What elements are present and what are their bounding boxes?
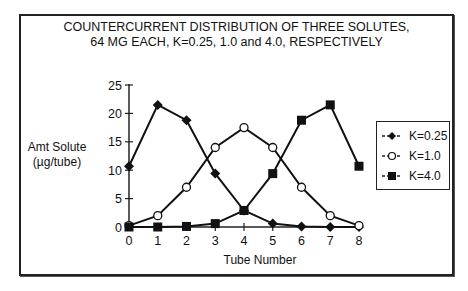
y-tick-label: 25: [108, 79, 122, 93]
x-tick-label: 0: [126, 234, 133, 248]
filled-square-marker-icon: [182, 222, 191, 231]
x-tick-label: 3: [212, 234, 219, 248]
open-circle-marker-icon: [211, 143, 219, 151]
filled-diamond-marker-icon: [325, 222, 335, 232]
y-tick-label: 10: [108, 164, 122, 178]
filled-square-marker-icon: [297, 116, 306, 125]
filled-square-marker-icon: [355, 162, 364, 171]
filled-diamond-marker-icon: [153, 100, 163, 110]
y-tick-label: 20: [108, 107, 122, 121]
x-axis-label: Tube Number: [200, 253, 320, 267]
y-tick-label: 5: [115, 192, 122, 206]
filled-square-marker-icon: [326, 100, 335, 109]
open-circle-marker-icon: [154, 212, 162, 220]
legend: K=0.25 K=1.0 K=4.0: [376, 121, 450, 190]
filled-diamond-marker-icon: [381, 131, 403, 141]
filled-diamond-marker-icon: [297, 221, 307, 231]
y-tick-label: 15: [108, 135, 122, 149]
open-circle-marker-icon: [298, 183, 306, 191]
open-circle-marker-icon: [240, 124, 248, 132]
x-tick-label: 4: [241, 234, 248, 248]
open-circle-marker-icon: [183, 183, 191, 191]
x-tick-label: 2: [183, 234, 190, 248]
x-tick-label: 7: [327, 234, 334, 248]
filled-square-marker-icon: [381, 171, 403, 181]
open-circle-marker-icon: [381, 151, 403, 161]
legend-item-k1: K=1.0: [381, 147, 441, 165]
legend-item-k4: K=4.0: [381, 167, 441, 185]
legend-label: K=4.0: [409, 169, 441, 183]
legend-label: K=1.0: [409, 149, 441, 163]
y-tick-label: 0: [115, 221, 122, 235]
x-tick-label: 5: [269, 234, 276, 248]
x-tick-label: 6: [298, 234, 305, 248]
filled-square-marker-icon: [240, 206, 249, 215]
filled-square-marker-icon: [153, 223, 162, 232]
x-tick-label: 8: [356, 234, 363, 248]
legend-item-k025: K=0.25: [381, 127, 447, 145]
x-tick-label: 1: [154, 234, 161, 248]
legend-label: K=0.25: [409, 129, 447, 143]
open-circle-marker-icon: [269, 143, 277, 151]
open-circle-marker-icon: [326, 212, 334, 220]
filled-square-marker-icon: [211, 219, 220, 228]
filled-square-marker-icon: [268, 169, 277, 178]
filled-square-marker-icon: [125, 223, 134, 232]
filled-diamond-marker-icon: [182, 115, 192, 125]
open-circle-marker-icon: [355, 222, 363, 230]
